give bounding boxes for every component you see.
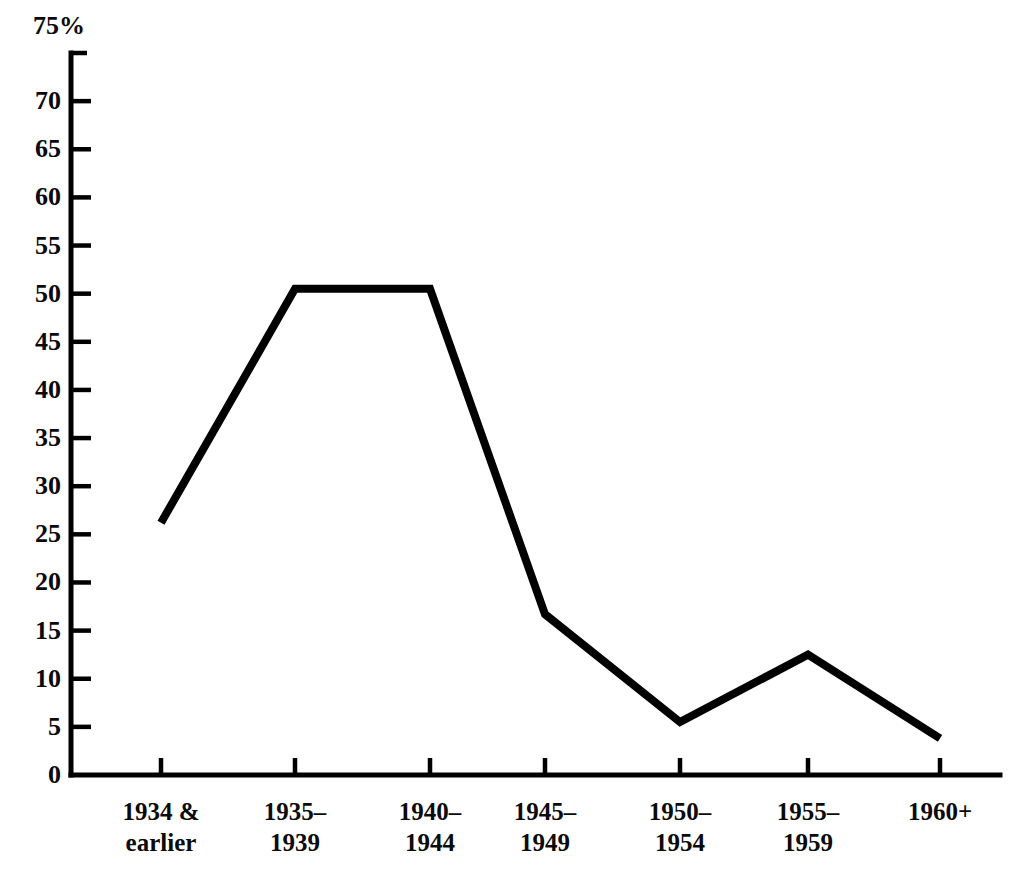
x-axis-category-line: 1960+ (860, 797, 1018, 828)
y-axis-tick-label: 40 (9, 377, 61, 403)
y-axis-tick-label: 50 (9, 281, 61, 307)
y-axis-tick-label: 70 (9, 88, 61, 114)
chart-figure: 051015202530354045505560657075% 1934 &ea… (0, 0, 1018, 884)
y-axis-tick-label: 45 (9, 329, 61, 355)
y-axis-unit-label: 75% (33, 13, 85, 39)
line-chart-plot (0, 0, 1018, 884)
y-axis-tick-label: 20 (9, 569, 61, 595)
y-axis-tick-label: 0 (9, 762, 61, 788)
y-axis-tick-label: 60 (9, 184, 61, 210)
y-axis-tick-label: 35 (9, 425, 61, 451)
y-axis-tick-label: 65 (9, 136, 61, 162)
data-series-group (161, 289, 940, 739)
y-axis-tick-label: 30 (9, 473, 61, 499)
y-axis-tick-label: 55 (9, 233, 61, 259)
y-axis-tick-label: 25 (9, 521, 61, 547)
axes-group (71, 53, 1000, 775)
data-line-series (161, 289, 940, 739)
y-axis-tick-label: 15 (9, 618, 61, 644)
x-axis-category-line: 1959 (728, 828, 888, 859)
y-axis-tick-label: 10 (9, 666, 61, 692)
x-axis-category-label: 1960+ (860, 797, 1018, 828)
y-axis-tick-label: 5 (9, 714, 61, 740)
